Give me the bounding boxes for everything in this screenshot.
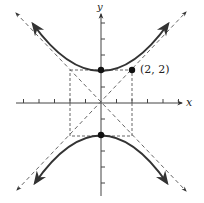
point-2-2 [129, 67, 135, 73]
point-label: (2, 2) [140, 64, 170, 75]
hyperbola-diagram [0, 0, 204, 203]
y-axis-label: y [97, 2, 103, 12]
vertex-bottom [98, 132, 104, 138]
vertex-top [98, 67, 104, 73]
x-axis-label: x [186, 97, 192, 108]
